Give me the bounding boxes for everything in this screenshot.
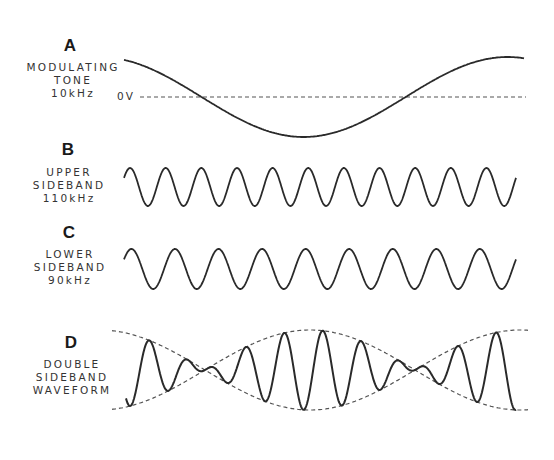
lower-sideband-wave bbox=[124, 249, 516, 289]
upper-sideband-wave bbox=[124, 168, 516, 206]
waveform-canvas bbox=[0, 0, 554, 460]
double-sideband-wave bbox=[126, 331, 516, 410]
